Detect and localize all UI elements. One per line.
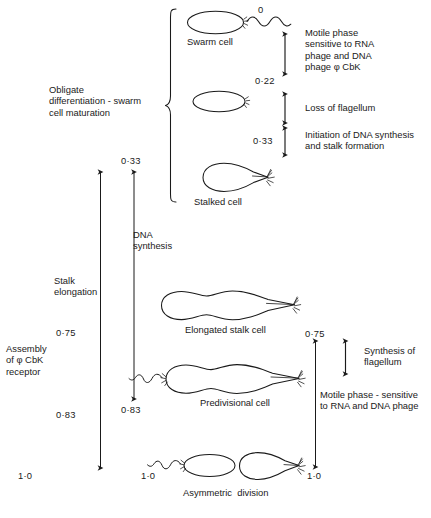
obligate-differentiation-label: Obligate differentiation - swarm cell ma… (49, 84, 141, 118)
swarm-cell-flagellum (247, 17, 291, 26)
stalk-elongation-bottom-value: 0·83 (56, 409, 76, 420)
diagram-canvas: Obligate differentiation - swarm cell ma… (0, 0, 431, 518)
stalk-elongation-label: Stalk elongation (54, 275, 97, 298)
swarm-cell-body (188, 11, 244, 33)
time-marker-0-75-right: 0·75 (305, 328, 325, 339)
time-marker-1-0-middle: 1·0 (141, 470, 155, 481)
elongated-stalk-cell-body (162, 291, 295, 320)
division-stalked-daughter (240, 453, 300, 480)
division-swarmer-flagellum (148, 461, 181, 469)
division-swarmer-daughter (184, 455, 235, 477)
elongated-stalk-cell-label: Elongated stalk cell (185, 324, 266, 335)
time-marker-0: 0 (258, 4, 263, 15)
predivisional-cell-body (166, 365, 299, 394)
stalked-cell-label: Stalked cell (194, 196, 242, 207)
motile-phase-top-label: Motile phase sensitive to RNA phage and … (305, 27, 374, 73)
time-marker-0-33-right: 0·33 (253, 135, 273, 146)
dna-synthesis-bottom-value: 0·83 (121, 404, 141, 415)
time-marker-1-0-right: 1·0 (307, 470, 321, 481)
dna-synthesis-label: DNA synthesis (133, 229, 172, 252)
loss-of-flagellum-label: Loss of flagellum (305, 102, 375, 113)
synthesis-of-flagellum-label: Synthesis of flagellum (364, 345, 415, 368)
time-marker-1-0-left: 1·0 (18, 470, 32, 481)
dna-initiation-label: Initiation of DNA synthesis and stalk fo… (305, 129, 414, 152)
diagram-vector-layer (0, 0, 431, 518)
asymmetric-division-label: Asymmetric division (183, 487, 268, 498)
flagellum-loss-cell-body (193, 91, 245, 111)
stalk-elongation-top-value: 0·75 (56, 327, 76, 338)
dna-synthesis-top-value: 0·33 (121, 155, 141, 166)
time-marker-0-22: 0·22 (255, 75, 275, 86)
swarm-cell-label: Swarm cell (187, 36, 233, 47)
obligate-differentiation-brace (166, 9, 177, 202)
stalked-cell-body (203, 163, 268, 191)
assembly-receptor-label: Assembly of φ CbK receptor (6, 343, 47, 377)
predivisional-cell-label: Predivisional cell (200, 397, 270, 408)
motile-phase-bottom-label: Motile phase - sensitive to RNA and DNA … (320, 389, 419, 412)
